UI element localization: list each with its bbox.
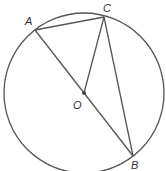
segment-CB	[104, 17, 133, 156]
label-O: O	[73, 99, 82, 111]
label-B: B	[131, 159, 138, 171]
label-A: A	[24, 15, 32, 27]
label-C: C	[103, 2, 111, 14]
geometry-diagram: A C O B	[0, 0, 166, 171]
center-point	[82, 91, 86, 95]
radius-OC	[84, 17, 104, 93]
